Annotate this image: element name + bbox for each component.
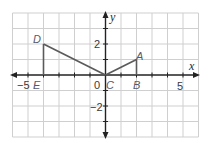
- y-axis-up-arrow-icon: [103, 11, 109, 18]
- point-label-A: A: [135, 50, 143, 62]
- origin-label: 0: [94, 79, 100, 91]
- point-label-D: D: [33, 33, 41, 45]
- x-axis-left-arrow-icon: [10, 72, 17, 78]
- coordinate-graph: x y −5 0 5 2 −2 D E C A B: [0, 0, 208, 143]
- x-tick-label-neg5: −5: [17, 79, 30, 91]
- point-label-B: B: [133, 79, 140, 91]
- y-tick-label-2: 2: [94, 38, 100, 50]
- point-label-C: C: [106, 79, 114, 91]
- y-tick-label-neg2: −2: [90, 101, 103, 113]
- point-label-E: E: [33, 79, 41, 91]
- y-axis-down-arrow-icon: [103, 132, 109, 139]
- x-tick-label-5: 5: [177, 80, 183, 92]
- y-axis-label: y: [109, 10, 116, 24]
- x-axis-label: x: [188, 59, 195, 73]
